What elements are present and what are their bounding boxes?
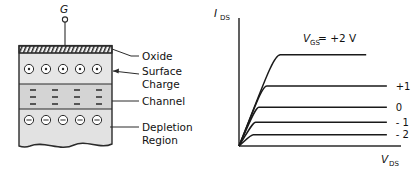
curve-label--2: - 2 xyxy=(396,129,409,140)
y-axis-label: I DS xyxy=(214,7,230,22)
curve-label-group: +10- 1- 2 xyxy=(396,81,411,141)
curve-label-+1: +1 xyxy=(396,81,411,92)
gate-terminal: G xyxy=(60,3,68,46)
vgs-annotation-rest: = +2 V xyxy=(318,32,357,44)
callout-oxide-label: Oxide xyxy=(142,50,173,62)
y-axis-label-main: I xyxy=(214,7,217,19)
y-axis-label-sub: DS xyxy=(220,14,230,22)
callout-depletion-region: Depletion Region xyxy=(110,121,193,147)
gate-label: G xyxy=(60,3,68,15)
callout-region-label: Region xyxy=(142,134,178,146)
callout-oxide: Oxide xyxy=(112,49,173,62)
figure-container: G xyxy=(0,0,415,171)
callout-channel-label: Channel xyxy=(142,95,185,107)
curve-vgs-0 xyxy=(239,107,387,146)
callout-depletion-label: Depletion xyxy=(142,121,193,133)
callout-charge-label: Charge xyxy=(142,78,180,90)
output-characteristics-chart: I DS V DS V GS = +2 V +10- 1- 2 xyxy=(214,7,410,168)
curve-vgs--2 xyxy=(239,135,387,146)
x-axis-label: V DS xyxy=(381,153,399,168)
callout-surface-label: Surface xyxy=(142,65,182,77)
callout-channel: Channel xyxy=(112,95,185,107)
oxide-layer xyxy=(19,46,112,53)
x-axis-label-sub: DS xyxy=(389,160,399,168)
curve-group xyxy=(239,55,387,146)
curve-vgs--1 xyxy=(239,122,387,146)
depletion-layer xyxy=(19,109,112,149)
figure-svg: G xyxy=(0,0,415,171)
curve-vgs-+1 xyxy=(239,86,387,146)
curve-label-0: 0 xyxy=(396,102,402,113)
x-axis-label-main: V xyxy=(381,153,389,165)
substrate-body xyxy=(19,46,112,150)
callout-surface-charge: Surface Charge xyxy=(113,65,182,91)
mosfet-cross-section: G xyxy=(19,3,193,149)
curve-label--1: - 1 xyxy=(396,117,409,128)
vgs-annotation: V GS = +2 V xyxy=(303,32,357,47)
